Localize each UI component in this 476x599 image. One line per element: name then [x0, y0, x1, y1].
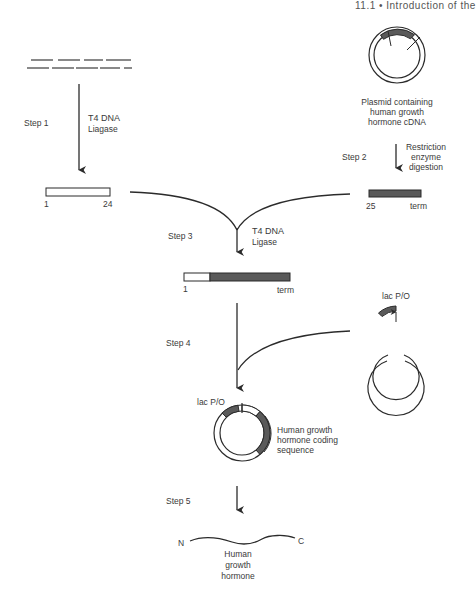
source-plasmid-icon [369, 27, 425, 83]
product-name-line3: hormone [210, 571, 266, 581]
source-plasmid-caption-line3: hormone cDNA [355, 117, 439, 127]
step2-label: Step 2 [342, 152, 367, 162]
synthetic-fragment-end: 24 [103, 199, 112, 209]
ligated-fragment [184, 273, 290, 281]
restriction-fragment-start: 25 [366, 201, 375, 211]
product-name-line1: Human [210, 549, 266, 559]
insert-label-line3: sequence [277, 445, 314, 455]
expression-plasmid-icon [214, 403, 271, 461]
source-plasmid-caption-line2: human growth [355, 107, 439, 117]
restriction-fragment [369, 190, 421, 197]
synthetic-fragment-start: 1 [44, 199, 49, 209]
c-terminus-label: C [298, 536, 304, 546]
step2-action-line3: digestion [400, 162, 452, 172]
synthetic-fragment [46, 188, 110, 196]
step2-action-line2: enzyme [400, 152, 452, 162]
protein-chain [190, 535, 295, 543]
vector-plasmid-icon [368, 306, 424, 416]
step3-label: Step 3 [168, 231, 193, 241]
step3-right-curve [237, 194, 350, 230]
ligated-fragment-end: term [277, 285, 294, 295]
step1-enzyme-line2: Liagase [88, 124, 118, 134]
vector-promoter-label: lac P/O [382, 291, 410, 301]
insert-label-line2: hormone coding [277, 435, 338, 445]
expression-promoter-label: lac P/O [197, 397, 225, 407]
step5-label: Step 5 [166, 496, 191, 506]
n-terminus-label: N [178, 538, 184, 548]
source-plasmid-caption-line1: Plasmid containing [355, 97, 439, 107]
product-name-line2: growth [210, 560, 266, 570]
restriction-fragment-end: term [410, 201, 427, 211]
step1-enzyme-line1: T4 DNA [88, 113, 120, 123]
step2-action-line1: Restriction [400, 142, 452, 152]
step3-enzyme-line1: T4 DNA [252, 226, 284, 236]
ligated-fragment-start: 1 [183, 284, 188, 294]
insert-label-line1: Human growth [277, 425, 332, 435]
step3-left-curve [130, 192, 237, 230]
step3-enzyme-line2: Ligase [252, 237, 277, 247]
oligonucleotide-fragments [27, 60, 132, 68]
step1-label: Step 1 [24, 118, 49, 128]
step4-label: Step 4 [166, 338, 191, 348]
step4-vector-curve [238, 331, 350, 370]
